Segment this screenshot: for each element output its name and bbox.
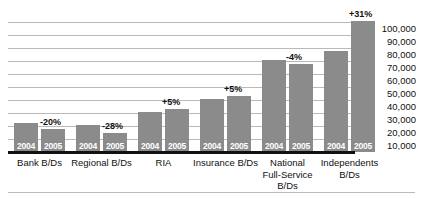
bar-2004: 2004 bbox=[324, 51, 348, 152]
bar-year-label: 2005 bbox=[227, 141, 251, 151]
bar-groups: 20042005-20%20042005-28%20042005+5%20042… bbox=[8, 22, 355, 152]
y-axis-tick-label: 70,000 bbox=[358, 62, 416, 73]
y-axis-tick-label: 90,000 bbox=[358, 36, 416, 47]
y-axis-tick-label: 80,000 bbox=[358, 49, 416, 60]
bar-2004: 2004 bbox=[138, 112, 162, 152]
category-label-line: B/Ds bbox=[295, 169, 405, 181]
y-axis: 10,00020,00030,00040,00050,00060,00070,0… bbox=[358, 22, 418, 152]
bar-year-label: 2004 bbox=[76, 141, 100, 151]
bar-2004: 2004 bbox=[76, 125, 100, 152]
y-axis-tick-label: 100,000 bbox=[358, 23, 416, 34]
bar-chart: 20042005-20%20042005-28%20042005+5%20042… bbox=[0, 0, 423, 198]
bar-2004: 2004 bbox=[262, 60, 286, 152]
bar-year-label: 2004 bbox=[262, 141, 286, 151]
bar-2004: 2004 bbox=[200, 99, 224, 152]
y-axis-tick-label: 40,000 bbox=[358, 101, 416, 112]
delta-annotation: -4% bbox=[286, 52, 302, 62]
bar-2005: 2005 bbox=[289, 64, 313, 152]
category-labels: Bank B/DsRegional B/DsRIAInsurance B/DsN… bbox=[8, 157, 355, 197]
bar-year-label: 2004 bbox=[14, 141, 38, 151]
category-label-line: B/Ds bbox=[233, 180, 343, 192]
bar-2005: 2005 bbox=[165, 109, 189, 152]
delta-annotation: -20% bbox=[40, 117, 61, 127]
bar-year-label: 2005 bbox=[103, 141, 127, 151]
bar-year-label: 2004 bbox=[138, 141, 162, 151]
category-label-line: Independents bbox=[295, 157, 405, 169]
y-axis-tick-label: 50,000 bbox=[358, 88, 416, 99]
bar-year-label: 2004 bbox=[324, 141, 348, 151]
bar-group: 20042005+5% bbox=[200, 22, 251, 152]
delta-annotation: +31% bbox=[349, 9, 372, 19]
bar-year-label: 2005 bbox=[41, 141, 65, 151]
bar-2004: 2004 bbox=[14, 123, 38, 152]
bar-group: 20042005-20% bbox=[14, 22, 65, 152]
y-axis-tick-label: 20,000 bbox=[358, 127, 416, 138]
delta-annotation: -28% bbox=[102, 121, 123, 131]
bar-group: 20042005+5% bbox=[138, 22, 189, 152]
bottom-divider bbox=[8, 192, 415, 193]
y-axis-tick-label: 30,000 bbox=[358, 114, 416, 125]
delta-annotation: +5% bbox=[224, 84, 242, 94]
axis-baseline bbox=[8, 151, 355, 154]
y-axis-tick-label: 10,000 bbox=[358, 140, 416, 151]
bar-2005: 2005 bbox=[103, 133, 127, 153]
bar-2005: 2005 bbox=[41, 129, 65, 152]
category-label: IndependentsB/Ds bbox=[295, 157, 405, 180]
bar-group: 20042005-4% bbox=[262, 22, 313, 152]
bar-year-label: 2005 bbox=[165, 141, 189, 151]
y-axis-tick-label: 60,000 bbox=[358, 75, 416, 86]
delta-annotation: +5% bbox=[162, 97, 180, 107]
bar-group: 20042005-28% bbox=[76, 22, 127, 152]
bar-year-label: 2004 bbox=[200, 141, 224, 151]
bar-year-label: 2005 bbox=[289, 141, 313, 151]
bar-2005: 2005 bbox=[227, 96, 251, 152]
